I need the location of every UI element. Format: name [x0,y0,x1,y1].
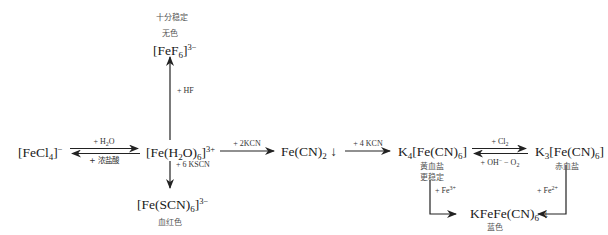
reaction-arrows [0,0,608,235]
fescn-text: [Fe(SCN) [137,197,190,212]
node-potassium-ferrocyanide: K4[Fe(CN)6] [398,145,467,161]
label-k3-to-prussian: + Fe2+ [537,185,558,195]
k3-text: [Fe(CN) [549,144,595,159]
label-feh2o-to-fecl4: + 浓盐酸 [89,157,119,165]
label-text: + Fe [537,186,552,195]
k3-bracket: ] [600,144,605,159]
label-sub: 2 [506,141,509,147]
label-text: + Cl [491,137,505,146]
label-sup: 2+ [552,185,558,191]
label-feh2o-to-fef6: + HF [177,87,194,95]
k4-note-stability: 更稳定 [420,174,444,182]
label-k4-to-k3: + Cl2 [491,138,508,147]
k3-text: K [535,144,545,159]
node-fecl4: [FeCl4]− [18,145,63,162]
label-sup: 3+ [450,185,456,191]
node-prussian-blue: KFeFe(CN)6 ↓ [470,207,549,223]
k4-text: [Fe(CN) [412,144,458,159]
k4-text: K [398,144,408,159]
label-text: − O [502,158,516,167]
label-feh2o-to-fescn: + 6 KSCN [176,161,210,169]
fecl4-text: [FeCl [18,145,49,160]
label-feh2o-to-fecn2: + 2KCN [233,140,260,148]
feh2o-text: [Fe(H [146,145,178,160]
feh2o-charge: 3+ [206,144,215,154]
fef6-note-stable: 十分稳定 [156,14,188,22]
node-fef6: [FeF6]3− [153,43,197,60]
prussian-text: KFeFe(CN) [470,206,535,221]
feh2o-text: O) [183,145,197,160]
label-k4-to-prussian: + Fe3+ [435,185,456,195]
fescn-note-color: 血红色 [158,219,182,227]
node-potassium-ferricyanide: K3[Fe(CN)6] [535,145,604,161]
precipitate-arrow: ↓ [327,144,337,159]
label-text: + Fe [435,186,450,195]
k4-bracket: ] [463,144,468,159]
fescn-charge: 3− [199,196,208,206]
label-text: + OH [481,158,499,167]
fef6-note-color: 无色 [162,30,178,38]
k3-note-name: 赤血盐 [555,163,579,171]
precipitate-arrow: ↓ [539,206,549,221]
fef6-charge: 3− [188,42,197,52]
fecn2-text: Fe(CN) [281,144,322,159]
label-fecn2-to-k4: + 4 KCN [353,140,382,148]
fef6-text: [FeF [153,43,179,58]
fecl4-charge: − [58,144,63,154]
label-k3-to-k4: + OH− − O2 [481,157,520,168]
node-fe-cyanide-precipitate: Fe(CN)2 ↓ [281,145,337,161]
prussian-note-color: 蓝色 [487,224,503,232]
k4-note-name: 黄血盐 [420,163,444,171]
label-text: O [109,137,115,146]
label-sub: 2 [516,162,519,168]
label-text: + H [93,137,105,146]
node-fe-thiocyanate: [Fe(SCN)6]3− [137,197,208,214]
label-fecl4-to-feh2o: + H2O [93,138,114,147]
